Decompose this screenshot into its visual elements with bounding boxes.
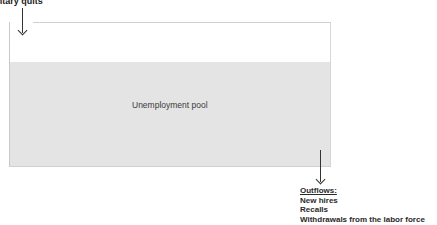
- pool-top-edge: [33, 22, 331, 23]
- arrow-down-icon: [316, 175, 326, 185]
- inflow-label: Voluntary quits: [0, 0, 43, 6]
- outflow-item: Withdrawals from the labor force: [300, 215, 425, 225]
- outflows-title: Outflows:: [300, 186, 425, 196]
- unemployment-pool-fill: [10, 62, 330, 166]
- outflow-arrow: [316, 150, 326, 184]
- outflows-list: Outflows: New hires Recalls Withdrawals …: [300, 186, 425, 224]
- pool-label: Unemployment pool: [132, 100, 208, 110]
- outflow-item: Recalls: [300, 205, 425, 215]
- outflow-item: New hires: [300, 196, 425, 206]
